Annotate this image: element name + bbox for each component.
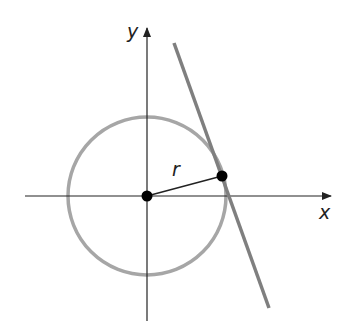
radius-segment	[147, 176, 222, 196]
tangency-point	[217, 171, 228, 182]
radius-label: r	[172, 160, 180, 179]
diagram-canvas: y x r	[0, 0, 341, 333]
origin-point	[142, 191, 153, 202]
x-axis-label: x	[319, 203, 330, 222]
y-axis-label: y	[127, 22, 138, 41]
diagram-svg	[0, 0, 341, 333]
